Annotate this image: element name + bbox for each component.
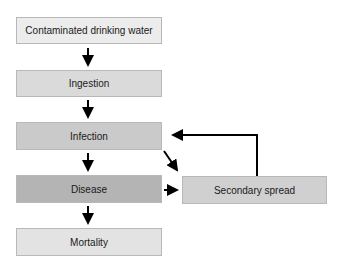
arrow-secondary-to-infection [173, 135, 257, 176]
arrows-layer [0, 0, 338, 267]
arrow-infection-to-secondary [164, 151, 177, 170]
